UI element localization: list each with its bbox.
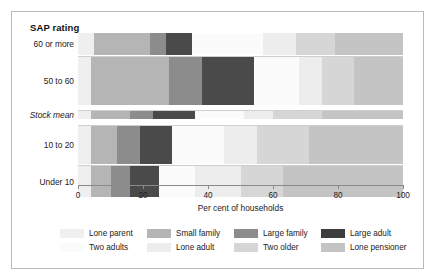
bar-segment [140,126,173,164]
bar-segment [244,111,273,119]
bar-segment [354,57,403,105]
bar-segment [257,126,309,164]
bar-segment [159,166,195,197]
bar-segment [172,126,224,164]
category-separator-line [78,165,403,166]
bar-segment [195,111,244,119]
legend-label: Lone adult [176,243,214,252]
legend-row: Two adultsLone adultTwo olderLone pensio… [60,240,410,254]
bar-segment [111,166,131,197]
legend-label: Small family [176,229,220,238]
legend-item: Two adults [60,243,147,252]
y-axis-tick-label: 10 to 20 [44,140,74,150]
stacked-bar [78,57,403,105]
x-axis-line [78,185,403,186]
y-axis-tick-label: 50 to 60 [44,76,74,86]
legend-item: Large family [234,229,321,238]
x-axis-tick-label: 0 [76,191,81,200]
x-axis-tick-label: 80 [333,191,342,200]
bar-segment [309,126,403,164]
x-axis-tick [403,185,404,189]
x-axis-tick-label: 20 [138,191,147,200]
legend-item: Two older [234,243,321,252]
bar-segment [296,33,335,55]
stacked-bar [78,126,403,164]
bar-segment [150,33,166,55]
bar-segment [91,126,117,164]
legend-label: Large adult [350,229,391,238]
legend-item: Lone parent [60,229,147,238]
x-axis-tick-label: 100 [396,191,410,200]
legend-swatch [321,243,345,252]
legend-item: Lone pensioner [321,243,408,252]
bar-segment [195,166,241,197]
bar-segment [335,33,403,55]
y-axis-tick-label: Stock mean [30,110,74,120]
legend-row: Lone parentSmall familyLarge familyLarge… [60,226,410,240]
legend-swatch [321,229,345,238]
x-axis-tick [143,185,144,189]
chart-figure: SAP rating 60 or more50 to 60Stock mean1… [0,0,435,280]
legend-swatch [60,229,84,238]
bar-segment [117,126,140,164]
bar-segment [166,33,192,55]
x-axis-tick [78,185,79,189]
category-separator-line [78,110,403,111]
bar-segment [202,57,254,105]
legend-swatch [147,229,171,238]
legend-swatch [60,243,84,252]
legend-item: Large adult [321,229,408,238]
bar-segment [91,57,169,105]
x-axis-tick [208,185,209,189]
legend-item: Lone adult [147,243,234,252]
bar-segment [78,33,94,55]
category-separator-line [78,125,403,126]
bar-segment [91,166,111,197]
legend-swatch [234,229,258,238]
bar-segment [322,57,355,105]
legend-label: Two older [263,243,299,252]
x-axis-tick-label: 60 [268,191,277,200]
bar-segment [94,33,149,55]
stacked-bar [78,33,403,55]
stacked-bar [78,111,403,119]
bar-segment [299,57,322,105]
legend-label: Large family [263,229,308,238]
legend-item: Small family [147,229,234,238]
x-axis-tick [273,185,274,189]
y-axis-tick-label: 60 or more [34,39,75,49]
stacked-bar [78,166,403,197]
bar-segment [91,111,130,119]
category-separator-line [78,56,403,57]
plot-area: 020406080100 [78,33,403,185]
x-axis-title: Per cent of households [78,203,403,213]
y-axis-tick-label: Under 10 [40,177,74,187]
bar-segment [224,126,257,164]
y-axis-labels: 60 or more50 to 60Stock mean10 to 20Unde… [14,33,74,185]
bar-segment [130,111,153,119]
legend-label: Lone pensioner [350,243,406,252]
legend-swatch [147,243,171,252]
legend-swatch [234,243,258,252]
x-axis-tick [338,185,339,189]
bar-segment [153,111,195,119]
legend-label: Two adults [89,243,128,252]
bar-segment [169,57,202,105]
bar-segment [78,111,91,119]
bar-segment [263,33,296,55]
bar-segment [254,57,300,105]
bar-segment [273,111,322,119]
bar-segment [192,33,264,55]
bar-segment [283,166,403,197]
chart-legend: Lone parentSmall familyLarge familyLarge… [60,226,410,254]
bar-segment [78,57,91,105]
bar-segment [78,126,91,164]
x-axis-tick-label: 40 [203,191,212,200]
bar-segment [322,111,403,119]
legend-label: Lone parent [89,229,133,238]
chart-title: SAP rating [30,22,79,33]
